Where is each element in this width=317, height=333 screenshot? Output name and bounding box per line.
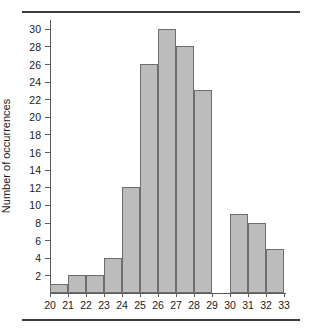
x-tick xyxy=(122,293,123,297)
y-tick-label: 10 xyxy=(29,200,41,211)
y-tick: 18 xyxy=(45,134,50,135)
y-tick: 24 xyxy=(45,82,50,83)
y-tick: 6 xyxy=(45,240,50,241)
y-tick: 20 xyxy=(45,117,50,118)
x-tick-label: 33 xyxy=(278,300,290,311)
y-tick: 8 xyxy=(45,223,50,224)
histogram-figure: Number of occurrences 246810121416182022… xyxy=(0,0,317,333)
x-tick xyxy=(230,293,231,297)
y-tick: 26 xyxy=(45,64,50,65)
bar xyxy=(140,64,158,293)
top-rule xyxy=(22,11,300,13)
x-tick-label: 29 xyxy=(206,300,218,311)
x-tick xyxy=(140,293,141,297)
y-tick: 10 xyxy=(45,205,50,206)
bar xyxy=(50,284,68,293)
y-tick-label: 28 xyxy=(29,42,41,53)
x-tick-label: 31 xyxy=(242,300,254,311)
y-tick: 22 xyxy=(45,99,50,100)
x-tick xyxy=(104,293,105,297)
y-tick-label: 2 xyxy=(35,271,41,282)
x-tick xyxy=(266,293,267,297)
y-tick-label: 18 xyxy=(29,130,41,141)
y-tick: 2 xyxy=(45,275,50,276)
y-tick: 14 xyxy=(45,170,50,171)
y-axis-title: Number of occurrences xyxy=(0,99,12,213)
y-tick-label: 30 xyxy=(29,24,41,35)
y-tick-label: 4 xyxy=(35,253,41,264)
y-axis-line xyxy=(50,20,51,293)
y-tick: 16 xyxy=(45,152,50,153)
bar xyxy=(104,258,122,293)
x-tick xyxy=(248,293,249,297)
bar xyxy=(194,90,212,293)
y-tick-label: 6 xyxy=(35,235,41,246)
bar xyxy=(230,214,248,293)
y-tick-label: 26 xyxy=(29,59,41,70)
bar xyxy=(122,187,140,293)
y-tick: 28 xyxy=(45,46,50,47)
x-tick-label: 28 xyxy=(188,300,200,311)
bar xyxy=(176,46,194,293)
bar xyxy=(248,223,266,293)
y-tick: 30 xyxy=(45,29,50,30)
bar xyxy=(158,29,176,293)
bar xyxy=(68,275,86,293)
bottom-rule xyxy=(22,319,300,321)
y-tick-label: 20 xyxy=(29,112,41,123)
x-tick xyxy=(158,293,159,297)
x-tick xyxy=(284,293,285,297)
x-tick-label: 32 xyxy=(260,300,272,311)
plot-area: 24681012141618202224262830 2021222324252… xyxy=(50,20,284,293)
bar xyxy=(86,275,104,293)
x-tick-label: 20 xyxy=(44,300,56,311)
y-tick-label: 12 xyxy=(29,183,41,194)
bar xyxy=(266,249,284,293)
y-tick-label: 14 xyxy=(29,165,41,176)
x-tick-label: 25 xyxy=(134,300,146,311)
y-tick-label: 24 xyxy=(29,77,41,88)
x-tick-label: 30 xyxy=(224,300,236,311)
y-tick-label: 8 xyxy=(35,218,41,229)
y-tick: 12 xyxy=(45,187,50,188)
x-tick-label: 26 xyxy=(152,300,164,311)
x-tick-label: 21 xyxy=(62,300,74,311)
x-tick xyxy=(176,293,177,297)
x-tick xyxy=(194,293,195,297)
x-tick xyxy=(212,293,213,297)
x-tick-label: 24 xyxy=(116,300,128,311)
x-tick xyxy=(86,293,87,297)
x-tick-label: 27 xyxy=(170,300,182,311)
x-tick-label: 23 xyxy=(98,300,110,311)
x-tick-label: 22 xyxy=(80,300,92,311)
x-tick xyxy=(68,293,69,297)
y-tick-label: 16 xyxy=(29,147,41,158)
y-tick: 4 xyxy=(45,258,50,259)
x-tick xyxy=(50,293,51,297)
y-tick-label: 22 xyxy=(29,95,41,106)
